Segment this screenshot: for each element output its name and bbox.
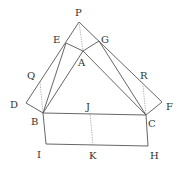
segment-EB — [43, 43, 66, 113]
segment-PF — [79, 22, 162, 102]
segment-BI — [43, 113, 46, 144]
segment-GC — [99, 41, 146, 115]
segment-QB — [40, 82, 43, 113]
label-Q: Q — [27, 70, 35, 81]
label-K: K — [89, 150, 97, 161]
label-J: J — [85, 101, 90, 112]
label-R: R — [140, 70, 148, 81]
segment-AB — [43, 51, 83, 113]
label-G: G — [101, 34, 109, 45]
label-I: I — [37, 149, 41, 160]
segment-BC — [43, 113, 146, 115]
geometry-diagram: P E G A Q R D F B J C I K H — [0, 0, 181, 170]
label-A: A — [77, 57, 86, 68]
label-F: F — [166, 101, 173, 112]
segment-PA — [79, 22, 83, 51]
label-D: D — [10, 99, 18, 110]
segment-AG — [83, 41, 99, 51]
label-B: B — [31, 116, 38, 127]
label-P: P — [75, 7, 82, 18]
segment-JK — [90, 113, 93, 145]
label-C: C — [148, 118, 156, 129]
segment-AC — [83, 51, 146, 115]
point-labels: P E G A Q R D F B J C I K H — [10, 7, 173, 161]
segment-EA — [66, 43, 83, 51]
segment-DB — [26, 103, 43, 113]
label-E: E — [53, 34, 60, 45]
solid-lines — [26, 22, 162, 146]
label-H: H — [150, 150, 159, 161]
segment-FC — [146, 102, 162, 115]
segment-IH — [46, 144, 148, 146]
